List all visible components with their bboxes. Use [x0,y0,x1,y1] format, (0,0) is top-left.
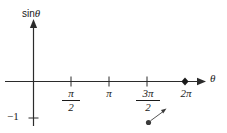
y-axis-label: sinθ [22,8,40,19]
plot-canvas [0,0,227,133]
sine-axis-figure: sinθ θ −1 π 2 π 3π 2 2π [0,0,227,133]
x-axis-arrowhead [197,78,206,85]
y-tick-label-minus-one: −1 [7,111,19,122]
x-tick-label-two-pi: 2π [176,88,196,99]
x-tick-label-three-pi-over-2: 3π 2 [136,88,160,114]
y-axis-label-prefix: sin [22,8,35,19]
three-pi-over-2-denominator: 2 [136,102,160,114]
x-tick-label-pi: π [101,88,117,99]
pi-over-2-denominator: 2 [62,102,80,114]
three-pi-over-2-numerator: 3π [136,88,160,100]
pi-over-2-numerator: π [62,88,80,100]
y-axis-arrowhead [30,19,37,28]
x-axis-label: θ [210,73,215,84]
marker-point-2pi[interactable] [181,78,188,86]
callout-dot [146,120,151,125]
y-axis-label-symbol: θ [35,7,40,19]
x-tick-label-pi-over-2: π 2 [62,88,80,114]
